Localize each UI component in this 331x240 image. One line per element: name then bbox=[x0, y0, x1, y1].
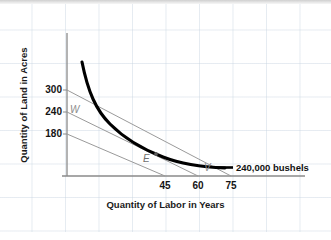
y-tick-label-180: 180 bbox=[28, 128, 62, 139]
x-tick-label-45: 45 bbox=[153, 180, 177, 191]
y-axis-title: Quantity of Land in Acres bbox=[16, 38, 30, 172]
isoquant-curve bbox=[82, 62, 225, 168]
isocost-line-tangent bbox=[67, 112, 198, 176]
annotation-label-v: V bbox=[204, 162, 211, 173]
isoquant-curve-label: 240,000 bushels bbox=[236, 162, 309, 173]
annotation-label-w: W bbox=[70, 104, 79, 115]
x-axis-title: Quantity of Labor in Years bbox=[0, 199, 331, 210]
x-tick-label-75: 75 bbox=[219, 180, 243, 191]
isocost-line-lower bbox=[67, 134, 165, 176]
y-tick-label-300: 300 bbox=[28, 84, 62, 95]
x-tick-label-60: 60 bbox=[186, 180, 210, 191]
annotation-label-e: E bbox=[143, 153, 150, 164]
point-marker-e bbox=[154, 152, 158, 156]
y-tick-label-240: 240 bbox=[28, 106, 62, 117]
y-axis-title-text: Quantity of Land in Acres bbox=[18, 47, 29, 162]
